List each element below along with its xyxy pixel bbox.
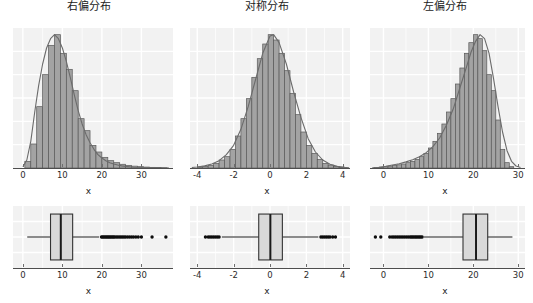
x-axis-tick: [62, 164, 63, 167]
x-axis-line: [13, 268, 173, 269]
figure-root: 右偏分布 0102030 x 对称分布 -4-2024 x 左偏分布 01020…: [0, 0, 533, 303]
x-axis-line: [190, 168, 350, 169]
x-axis-tick: [518, 164, 519, 167]
x-axis-tick-label: 2: [304, 170, 309, 180]
x-axis-line: [190, 268, 350, 269]
panel-box-left-skewed: 0102030 x: [357, 196, 533, 303]
x-axis-tick-label: 20: [96, 170, 107, 180]
plot-area: [13, 28, 173, 168]
x-axis-title: x: [177, 286, 357, 297]
x-axis-line: [370, 268, 525, 269]
plot-area: [190, 28, 350, 168]
x-axis-tick-label: 0: [267, 270, 272, 280]
x-axis-tick-label: 20: [468, 170, 479, 180]
x-axis-tick-label: 10: [423, 170, 434, 180]
x-axis-tick-label: -2: [229, 270, 237, 280]
plot-area: [13, 206, 173, 268]
x-axis-tick: [141, 164, 142, 167]
boxplot-canvas: [370, 206, 525, 268]
x-axis-tick-label: 0: [20, 170, 25, 180]
x-axis-tick: [234, 264, 235, 267]
histogram-canvas: [13, 28, 173, 168]
x-axis-tick-label: -4: [193, 170, 201, 180]
x-axis-tick-label: 0: [267, 170, 272, 180]
x-axis-tick-label: 2: [304, 270, 309, 280]
x-axis-tick-label: 10: [423, 270, 434, 280]
x-axis-tick: [343, 264, 344, 267]
x-axis-tick: [197, 164, 198, 167]
histogram-canvas: [370, 28, 525, 168]
x-axis-tick: [473, 264, 474, 267]
boxplot-canvas: [13, 206, 173, 268]
x-axis-tick-label: 0: [381, 270, 386, 280]
x-axis-tick: [383, 264, 384, 267]
x-axis-tick: [62, 264, 63, 267]
x-axis-line: [370, 168, 525, 169]
x-axis-tick: [428, 264, 429, 267]
x-axis-tick: [270, 164, 271, 167]
x-axis-tick: [141, 264, 142, 267]
x-axis-tick-label: 30: [513, 270, 524, 280]
x-axis-tick: [23, 264, 24, 267]
x-axis-title: x: [0, 286, 177, 297]
x-axis-tick: [473, 164, 474, 167]
x-axis-tick-label: 20: [96, 270, 107, 280]
x-axis-tick-label: -2: [229, 170, 237, 180]
x-axis-tick: [23, 164, 24, 167]
panel-title: 右偏分布: [0, 0, 177, 14]
panel-title: 左偏分布: [357, 0, 533, 14]
x-axis-tick-label: 20: [468, 270, 479, 280]
x-axis-tick-label: 0: [20, 270, 25, 280]
panel-hist-left-skewed: 左偏分布 0102030 x: [357, 0, 533, 196]
panel-hist-right-skewed: 右偏分布 0102030 x: [0, 0, 177, 196]
panel-hist-symmetric: 对称分布 -4-2024 x: [177, 0, 357, 196]
x-axis-tick-label: 4: [340, 170, 345, 180]
x-axis-tick-label: 4: [340, 270, 345, 280]
x-axis-tick-label: -4: [193, 270, 201, 280]
panel-box-symmetric: -4-2024 x: [177, 196, 357, 303]
x-axis-tick: [306, 164, 307, 167]
boxplot-canvas: [190, 206, 350, 268]
x-axis-line: [13, 168, 173, 169]
x-axis-tick-label: 30: [136, 170, 147, 180]
x-axis-tick: [428, 164, 429, 167]
x-axis-title: x: [357, 286, 533, 297]
plot-area: [190, 206, 350, 268]
x-axis-tick-label: 10: [57, 270, 68, 280]
x-axis-tick-label: 30: [513, 170, 524, 180]
panel-title: 对称分布: [177, 0, 357, 14]
x-axis-tick: [102, 164, 103, 167]
plot-area: [370, 206, 525, 268]
x-axis-tick-label: 10: [57, 170, 68, 180]
x-axis-tick: [197, 264, 198, 267]
x-axis-tick: [306, 264, 307, 267]
x-axis-tick-label: 30: [136, 270, 147, 280]
x-axis-tick: [383, 164, 384, 167]
x-axis-tick: [270, 264, 271, 267]
x-axis-tick-label: 0: [381, 170, 386, 180]
panel-box-right-skewed: 0102030 x: [0, 196, 177, 303]
plot-area: [370, 28, 525, 168]
x-axis-tick: [102, 264, 103, 267]
x-axis-tick: [343, 164, 344, 167]
histogram-canvas: [190, 28, 350, 168]
x-axis-tick: [518, 264, 519, 267]
x-axis-tick: [234, 164, 235, 167]
